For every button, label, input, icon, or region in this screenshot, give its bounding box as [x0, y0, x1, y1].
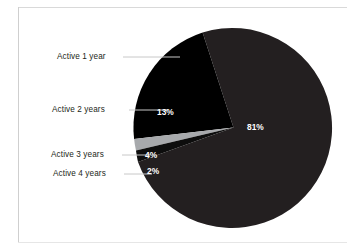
- pie-label-active-3-years: Active 3 years: [51, 150, 104, 159]
- pie-value-active-3-years: 4%: [145, 150, 157, 160]
- pie-chart: Active 1 year Active 2 years Active 3 ye…: [0, 0, 347, 247]
- pie-value-active-1-year: 81%: [247, 122, 264, 132]
- pie-value-active-2-years: 13%: [157, 107, 174, 117]
- pie-value-active-4-years: 2%: [147, 166, 159, 176]
- chart-page: Active 1 year Active 2 years Active 3 ye…: [0, 0, 347, 247]
- pie-chart-svg: [0, 0, 347, 247]
- pie-label-active-2-years: Active 2 years: [52, 105, 105, 114]
- pie-label-active-1-year: Active 1 year: [57, 52, 106, 61]
- pie-label-active-4-years: Active 4 years: [53, 169, 106, 178]
